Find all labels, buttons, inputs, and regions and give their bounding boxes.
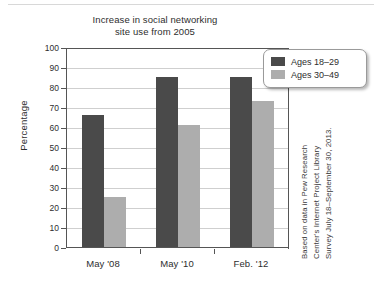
x-tick-label-1: May '10 (140, 258, 214, 269)
x-tick-label-2: Feb. '12 (214, 258, 288, 269)
legend-label-ages-30-49: Ages 30–49 (291, 70, 339, 80)
legend-item-ages-30-49[interactable]: Ages 30–49 (271, 68, 359, 81)
y-tick-label-40: 40 (37, 164, 59, 173)
y-tick-label-100: 100 (37, 44, 59, 53)
legend-swatch-icon-dark (271, 57, 285, 66)
chart-title-line-2: site use from 2005 (46, 26, 264, 38)
source-note: Based on data in Pew Research Center's I… (294, 100, 338, 268)
y-tick-label-80: 80 (37, 84, 59, 93)
y-tick-label-50: 50 (37, 144, 59, 153)
chart-title-line-1: Increase in social networking (46, 14, 264, 26)
y-axis-title: Percentage (18, 86, 29, 166)
source-note-line-1: Based on data in Pew Research (300, 145, 309, 259)
top-divider-rule (8, 4, 374, 5)
bar-may-08-series-0 (82, 115, 104, 247)
bar-feb-12-series-1 (252, 101, 274, 247)
y-tick-label-10: 10 (37, 224, 59, 233)
bar-may-10-series-1 (178, 125, 200, 247)
x-tick-label-0: May '08 (66, 258, 140, 269)
plot-area (66, 48, 288, 248)
y-tick-label-20: 20 (37, 204, 59, 213)
gridline-90 (67, 68, 288, 69)
x-tick-mark-2 (214, 249, 215, 254)
legend-label-ages-18-29: Ages 18–29 (291, 57, 339, 67)
bar-feb-12-series-0 (230, 77, 252, 247)
bar-chart-figure: Increase in social networking site use f… (0, 0, 382, 292)
y-axis-tick-labels: 1009080706050403020100 (32, 0, 59, 292)
bar-may-08-series-1 (104, 197, 126, 247)
y-tick-label-0: 0 (37, 244, 59, 253)
y-tick-label-60: 60 (37, 124, 59, 133)
y-tick-label-70: 70 (37, 104, 59, 113)
y-tick-label-90: 90 (37, 64, 59, 73)
legend-item-ages-18-29[interactable]: Ages 18–29 (271, 55, 359, 68)
source-note-line-3: Survey July 18–September 30, 2013. (324, 127, 333, 259)
x-tick-mark-1 (140, 249, 141, 254)
plot-top-border (66, 48, 289, 49)
chart-title: Increase in social networking site use f… (46, 14, 264, 38)
y-tick-mark-0 (61, 248, 66, 249)
y-tick-label-30: 30 (37, 184, 59, 193)
source-note-line-2: Center's Internet Project Library (312, 146, 321, 259)
legend-swatch-icon-light (271, 70, 285, 79)
bar-may-10-series-0 (156, 77, 178, 247)
chart-legend[interactable]: Ages 18–29 Ages 30–49 (263, 49, 367, 88)
